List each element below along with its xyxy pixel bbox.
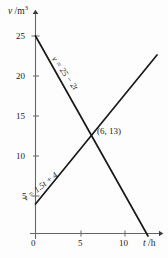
x-axis-title: t /h <box>143 238 155 248</box>
y-tick-label-10: 10 <box>16 151 25 161</box>
origin-tick-label: 0 <box>31 238 36 248</box>
y-axis-title: v /m3 <box>8 6 28 16</box>
y-axis-exponent: 3 <box>25 4 28 11</box>
graph-figure: v /m3 t /h 25 20 15 10 5 0 5 10 v = 25 −… <box>0 0 168 258</box>
plot-canvas <box>0 0 168 258</box>
y-tick-label-15: 15 <box>16 111 25 121</box>
intersection-point-label: (6, 13) <box>97 126 121 136</box>
y-tick-label-25: 25 <box>16 31 25 41</box>
x-tick-label-10: 10 <box>119 238 128 248</box>
x-axis-unit: /h <box>148 238 155 248</box>
y-axis-unit: /m <box>15 6 25 16</box>
y-tick-label-20: 20 <box>16 71 25 81</box>
x-tick-label-5: 5 <box>78 238 83 248</box>
